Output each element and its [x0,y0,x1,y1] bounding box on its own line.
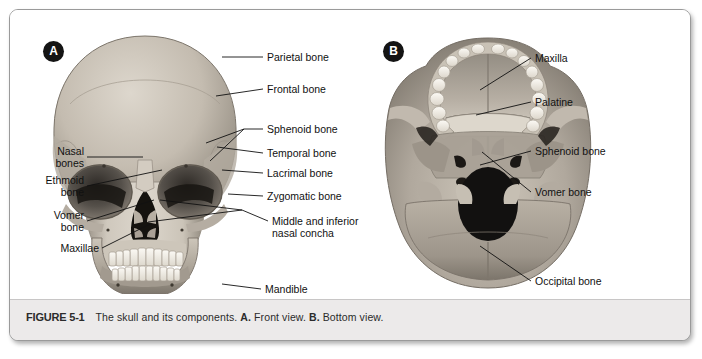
caption-main-text: The skull and its components. [96,311,238,323]
label-mandible: Mandible [265,283,308,295]
label-vomer-bone: Vomer bone [10,209,84,234]
figure-card: A B Parietal bone Frontal bone Sphenoid … [9,9,691,341]
label-middle-and-inferior-nasal-concha: Middle and inferior nasal concha [272,215,358,240]
figure-caption-band: FIGURE 5-1The skull and its components. … [10,299,690,340]
figure-plate: A B Parietal bone Frontal bone Sphenoid … [10,10,690,299]
caption-b-tag: B. [309,311,320,323]
label-nasal-bones: Nasal bones [10,145,84,170]
figure-caption: FIGURE 5-1The skull and its components. … [26,311,682,323]
label-maxilla: Maxilla [535,52,568,64]
label-sphenoid-bone-b: Sphenoid bone [535,145,606,157]
caption-a-tag: A. [240,311,251,323]
caption-b-text: Bottom view. [323,311,384,323]
label-palatine: Palatine [535,96,573,108]
label-vomer-bone-b: Vomer bone [535,186,592,198]
panel-letter-b: B [383,41,404,62]
label-occipital-bone: Occipital bone [535,275,602,287]
label-parietal-bone: Parietal bone [267,51,329,63]
label-lacrimal-bone: Lacrimal bone [267,167,333,179]
label-zygomatic-bone: Zygomatic bone [267,190,342,202]
label-sphenoid-bone: Sphenoid bone [267,123,338,135]
label-frontal-bone: Frontal bone [267,83,326,95]
caption-a-text: Front view. [254,311,306,323]
panel-letter-a: A [43,41,64,62]
skull-bottom-view-illustration [372,32,604,294]
figure-number: FIGURE 5-1 [26,311,85,323]
label-maxillae: Maxillae [10,242,99,254]
label-ethmoid-bone: Ethmoid bone [10,174,84,199]
label-temporal-bone: Temporal bone [267,147,336,159]
